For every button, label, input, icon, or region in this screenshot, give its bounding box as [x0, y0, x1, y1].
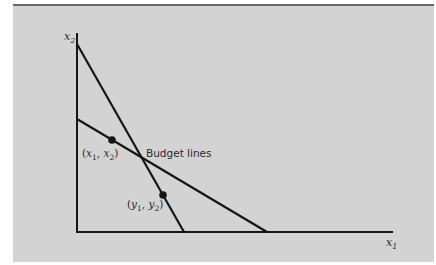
y-axis-label: x2 [64, 30, 75, 45]
budget-line-shallow [77, 119, 267, 232]
budget-lines-label: Budget lines [146, 147, 212, 159]
point-y-label: (y1, y2) [127, 198, 163, 213]
point-x1-x2 [108, 136, 116, 144]
budget-lines-diagram: x2 x1 Budget lines (x1, x2) (y1, y2) [0, 0, 436, 265]
x-axis-label: x1 [386, 236, 397, 251]
point-x-label: (x1, x2) [82, 147, 118, 162]
